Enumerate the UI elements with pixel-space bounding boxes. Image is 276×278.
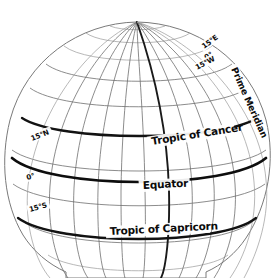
globe-svg: Tropic of Cancer Equator Tropic of Capri… <box>0 0 276 278</box>
equator-line <box>12 158 266 182</box>
latitude-line-15s <box>12 150 266 171</box>
equator-label-group: Equator <box>138 177 190 193</box>
tropic-of-cancer-label-group: Tropic of Cancer <box>146 121 244 149</box>
latitude-north-15-label-group: 15°N <box>28 126 54 143</box>
latitude-south-15-label-group: 15°S <box>26 199 51 214</box>
latitude-south-15-label: 15°S <box>28 200 48 214</box>
equator-label: Equator <box>142 177 189 191</box>
globe-figure: Tropic of Cancer Equator Tropic of Capri… <box>0 0 276 278</box>
tropic-of-cancer-label: Tropic of Cancer <box>150 121 244 147</box>
latitude-north-15-label: 15°N <box>29 127 50 142</box>
longitude-east-15-label-group: 15°E <box>198 30 223 51</box>
latitude-zero-label-group: 0° <box>23 171 36 182</box>
